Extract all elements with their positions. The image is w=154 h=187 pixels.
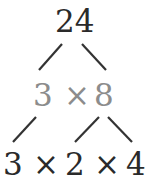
edge-8-right: [108, 117, 132, 142]
edge-8-left: [75, 117, 99, 142]
level2-times-2: ×: [94, 149, 120, 180]
level2-c: 4: [126, 149, 146, 180]
root-number: 24: [55, 6, 94, 37]
level2-b: 2: [65, 149, 85, 180]
edge-root-left: [39, 44, 62, 70]
level1-right: 8: [94, 80, 114, 111]
level1-left: 3: [33, 80, 53, 111]
level1-times: ×: [64, 80, 90, 111]
level2-times-1: ×: [33, 149, 59, 180]
edge-3-down: [13, 117, 36, 142]
edge-root-right: [82, 44, 106, 70]
level2-a: 3: [3, 149, 23, 180]
